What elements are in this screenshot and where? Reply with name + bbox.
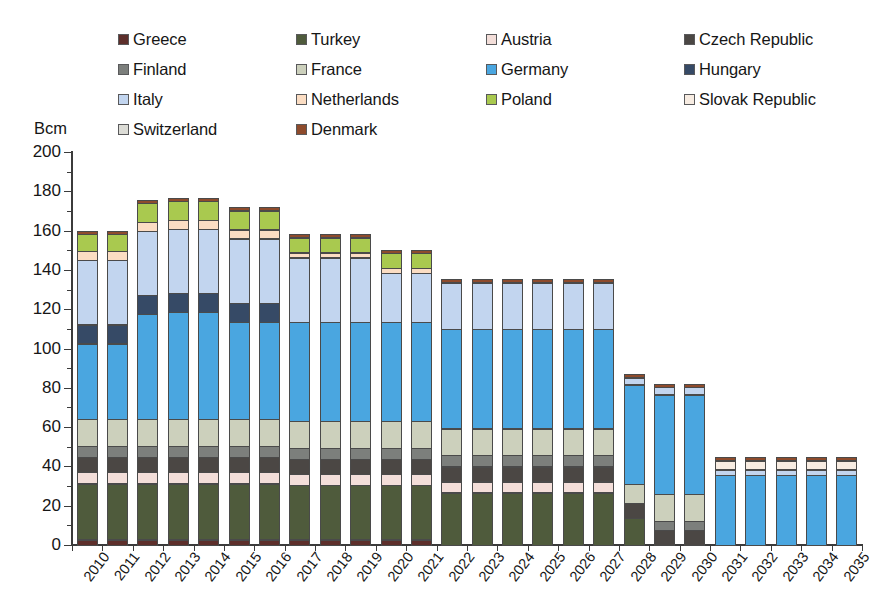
bar-segment-poland <box>229 211 250 231</box>
bar-segment-czech-republic <box>563 467 584 483</box>
bar-segment-poland <box>289 238 310 254</box>
y-axis-minor-tick <box>67 407 72 408</box>
bar-segment-czech-republic <box>137 457 158 473</box>
y-axis-tick-label: 120 <box>33 299 61 319</box>
legend-item-poland[interactable]: Poland <box>486 91 684 107</box>
bar-segment-italy <box>320 258 341 323</box>
bar-2019[interactable] <box>350 234 371 545</box>
bar-segment-turkey <box>624 518 645 546</box>
bar-2027[interactable] <box>593 279 614 545</box>
bar-2018[interactable] <box>320 234 341 545</box>
bar-2023[interactable] <box>472 279 493 545</box>
y-axis-minor-tick <box>67 211 72 212</box>
bar-2029[interactable] <box>654 384 675 545</box>
bar-2017[interactable] <box>289 234 310 545</box>
bar-segment-austria <box>107 472 128 484</box>
bar-2028[interactable] <box>624 374 645 545</box>
bar-segment-france <box>472 429 493 457</box>
x-axis-tick <box>194 544 195 551</box>
bar-2013[interactable] <box>168 198 189 545</box>
bar-2010[interactable] <box>77 231 98 545</box>
y-axis-tick-label: 180 <box>33 181 61 201</box>
bar-2035[interactable] <box>836 457 857 545</box>
bar-segment-turkey <box>381 485 402 540</box>
legend-item-czech-republic[interactable]: Czech Republic <box>684 31 878 47</box>
x-axis-tick-label: 2030 <box>688 549 720 584</box>
bar-segment-greece <box>259 540 280 546</box>
bar-segment-greece <box>229 540 250 546</box>
bar-segment-poland <box>259 211 280 231</box>
bar-segment-italy <box>350 258 371 323</box>
legend-swatch-icon <box>296 34 307 45</box>
legend-item-finland[interactable]: Finland <box>118 61 296 77</box>
legend-item-switzerland[interactable]: Switzerland <box>118 121 296 137</box>
bar-2033[interactable] <box>776 457 797 545</box>
bar-2032[interactable] <box>745 457 766 545</box>
bar-2031[interactable] <box>715 457 736 545</box>
y-axis-minor-tick <box>67 290 72 291</box>
bar-2025[interactable] <box>532 279 553 545</box>
bar-segment-germany <box>350 322 371 422</box>
bar-segment-germany <box>411 322 432 422</box>
legend-item-netherlands[interactable]: Netherlands <box>296 91 486 107</box>
bar-segment-finland <box>350 448 371 460</box>
legend-item-austria[interactable]: Austria <box>486 31 684 47</box>
bar-segment-greece <box>289 540 310 546</box>
bar-segment-austria <box>472 482 493 494</box>
x-axis-tick-label: 2019 <box>354 549 386 584</box>
bar-2012[interactable] <box>137 200 158 545</box>
bar-2034[interactable] <box>806 457 827 545</box>
bar-segment-turkey <box>198 484 219 541</box>
bar-2024[interactable] <box>502 279 523 545</box>
bar-segment-czech-republic <box>381 459 402 475</box>
bar-segment-germany <box>593 329 614 429</box>
x-axis-tick <box>467 544 468 551</box>
x-axis-tick <box>740 544 741 551</box>
legend-item-slovak-republic[interactable]: Slovak Republic <box>684 91 878 107</box>
legend-item-denmark[interactable]: Denmark <box>296 121 486 137</box>
legend-item-italy[interactable]: Italy <box>118 91 296 107</box>
bar-segment-austria <box>563 482 584 494</box>
legend-item-turkey[interactable]: Turkey <box>296 31 486 47</box>
legend-row: GreeceTurkeyAustriaCzech Republic <box>118 24 878 54</box>
x-axis-tick <box>710 544 711 551</box>
y-axis-major-tick <box>64 545 72 546</box>
bar-segment-poland <box>350 238 371 254</box>
bar-segment-austria <box>77 472 98 484</box>
bar-2021[interactable] <box>411 250 432 545</box>
bar-segment-turkey <box>350 485 371 540</box>
legend-item-hungary[interactable]: Hungary <box>684 61 878 77</box>
bar-segment-italy <box>472 283 493 330</box>
bar-2026[interactable] <box>563 279 584 545</box>
legend-item-france[interactable]: France <box>296 61 486 77</box>
bar-segment-hungary <box>259 303 280 323</box>
bar-segment-austria <box>168 472 189 484</box>
y-axis-tick-label: 60 <box>42 417 61 437</box>
x-axis-tick-label: 2024 <box>505 549 537 584</box>
bar-segment-finland <box>532 455 553 467</box>
bar-segment-poland <box>320 238 341 254</box>
bar-2020[interactable] <box>381 250 402 545</box>
y-axis-tick-label: 20 <box>42 496 61 516</box>
legend-swatch-icon <box>296 94 307 105</box>
y-axis-minor-tick <box>67 250 72 251</box>
bar-segment-france <box>593 429 614 457</box>
bar-segment-poland <box>198 201 219 221</box>
legend-item-greece[interactable]: Greece <box>118 31 296 47</box>
legend-item-label: France <box>311 61 362 77</box>
bar-segment-germany <box>198 312 219 420</box>
bar-2016[interactable] <box>259 207 280 545</box>
bar-segment-austria <box>532 482 553 494</box>
bar-segment-france <box>229 419 250 447</box>
bar-segment-germany <box>472 329 493 429</box>
bar-2030[interactable] <box>684 384 705 545</box>
bar-2022[interactable] <box>441 279 462 545</box>
bar-2011[interactable] <box>107 231 128 545</box>
bar-segment-france <box>137 419 158 447</box>
bar-2015[interactable] <box>229 207 250 545</box>
legend-swatch-icon <box>486 64 497 75</box>
legend-item-germany[interactable]: Germany <box>486 61 684 77</box>
legend-swatch-icon <box>118 64 129 75</box>
bar-2014[interactable] <box>198 198 219 545</box>
bar-segment-italy <box>198 229 219 294</box>
